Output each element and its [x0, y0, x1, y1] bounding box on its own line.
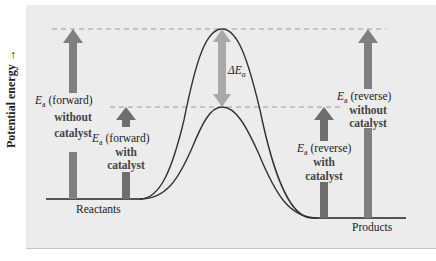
svg-text:Ea (forward): Ea (forward): [91, 132, 150, 147]
ea-reverse-with-label: Ea (reverse) with catalyst: [296, 142, 351, 183]
svg-text:with: with: [115, 146, 137, 158]
svg-text:without: without: [349, 104, 387, 116]
svg-text:catalyst: catalyst: [349, 117, 387, 130]
catalyzed-curve: [140, 107, 318, 218]
reactants-label: Reactants: [76, 203, 121, 215]
ea-forward-with-label: Ea (forward) with catalyst: [91, 132, 150, 172]
energy-diagram: ΔEa Ea (forward) without catalyst Ea (fo…: [0, 0, 436, 261]
products-label: Products: [352, 221, 393, 233]
svg-text:Ea (reverse): Ea (reverse): [296, 142, 351, 157]
ea-reverse-without-label: Ea (reverse) without catalyst: [336, 90, 391, 130]
ea-forward-without-label: Ea (forward) without catalyst: [34, 94, 93, 140]
svg-text:catalyst: catalyst: [54, 127, 92, 140]
svg-text:Ea (reverse): Ea (reverse): [336, 90, 391, 105]
svg-text:without: without: [54, 111, 92, 123]
svg-text:catalyst: catalyst: [305, 170, 343, 183]
delta-ea-label: ΔEa: [227, 64, 246, 79]
svg-text:with: with: [313, 156, 335, 168]
svg-text:catalyst: catalyst: [107, 159, 145, 172]
svg-text:Ea (forward): Ea (forward): [34, 94, 93, 109]
